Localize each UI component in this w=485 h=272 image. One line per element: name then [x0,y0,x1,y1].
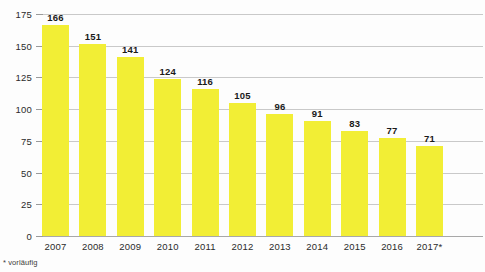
bar-value-label: 71 [424,133,435,144]
x-axis-tick-label: 2014 [298,241,337,252]
bar[interactable] [379,138,406,236]
x-axis-tick-label: 2011 [186,241,225,252]
bar-value-label: 83 [349,118,360,129]
plot-area: 1661511411241161059691837771 [36,8,485,242]
bar-group[interactable]: 151 [79,44,106,236]
bar-group[interactable]: 116 [192,89,219,236]
y-axis-tick-label: 25 [2,199,32,210]
bar-value-label: 166 [47,12,63,23]
x-axis-tick-label: 2015 [335,241,374,252]
bar-group[interactable]: 71 [416,146,443,236]
bar-value-label: 105 [234,90,250,101]
bar-group[interactable]: 83 [341,131,368,236]
x-axis-tick-label: 2007 [36,241,75,252]
bar-value-label: 91 [312,108,323,119]
x-axis-tick-label: 2017* [410,241,449,252]
x-axis-tick-label: 2009 [111,241,150,252]
x-axis-tick-label: 2012 [223,241,262,252]
bar-chart: 1661511411241161059691837771 02550751001… [0,0,485,272]
bar-group[interactable]: 77 [379,138,406,236]
x-axis-tick-label: 2008 [73,241,112,252]
bar-value-label: 96 [274,101,285,112]
bar-value-label: 124 [159,66,175,77]
y-axis-tick-label: 125 [2,72,32,83]
bar[interactable] [341,131,368,236]
bar[interactable] [42,25,69,236]
bar[interactable] [229,103,256,236]
bar-group[interactable]: 166 [42,25,69,236]
bar-group[interactable]: 91 [304,121,331,236]
bar-group[interactable]: 96 [266,114,293,236]
bar-group[interactable]: 105 [229,103,256,236]
bar[interactable] [192,89,219,236]
x-axis-tick-label: 2016 [373,241,412,252]
x-axis-tick-label: 2013 [260,241,299,252]
bar[interactable] [266,114,293,236]
bar-group[interactable]: 141 [117,57,144,236]
bar[interactable] [304,121,331,236]
bars-layer: 1661511411241161059691837771 [36,8,485,242]
chart-footnote: * vorläufig [3,258,37,267]
bar-value-label: 116 [197,76,213,87]
bar-value-label: 151 [85,31,101,42]
bar-value-label: 141 [122,44,138,55]
bar-value-label: 77 [387,125,398,136]
bar-group[interactable]: 124 [154,79,181,236]
y-axis-tick-label: 0 [2,231,32,242]
bar[interactable] [117,57,144,236]
x-axis-tick-label: 2010 [148,241,187,252]
bar[interactable] [79,44,106,236]
bar[interactable] [416,146,443,236]
y-axis-tick-label: 150 [2,40,32,51]
y-axis-tick-label: 75 [2,135,32,146]
bar[interactable] [154,79,181,236]
y-axis-tick-label: 175 [2,9,32,20]
y-axis-tick-label: 100 [2,104,32,115]
y-axis-tick-label: 50 [2,167,32,178]
